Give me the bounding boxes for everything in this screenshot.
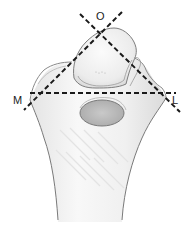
articular-head xyxy=(74,28,137,88)
label-l: L xyxy=(172,95,178,106)
label-m: M xyxy=(13,95,22,106)
fossa xyxy=(80,100,124,126)
anatomical-diagram: O M L xyxy=(0,0,191,226)
bone-illustration xyxy=(0,0,191,226)
label-o: O xyxy=(96,11,105,22)
